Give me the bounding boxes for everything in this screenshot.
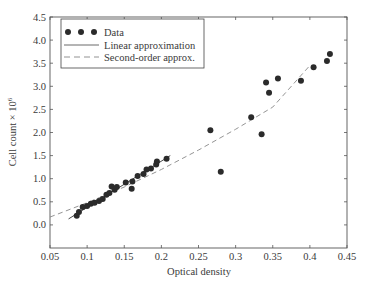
data-point [275, 75, 281, 81]
data-point [248, 114, 254, 120]
legend-data-marker-icon [65, 29, 97, 35]
data-point [129, 178, 135, 184]
x-tick-label: 0.25 [189, 251, 207, 262]
chart: 0.050.10.150.20.250.30.350.40.450.00.51.… [0, 0, 374, 288]
data-point [114, 184, 120, 190]
legend-label-data: Data [104, 27, 124, 38]
y-tick-label: 4.5 [33, 12, 46, 23]
y-tick-label: 1.0 [33, 173, 46, 184]
x-tick-label: 0.3 [229, 251, 242, 262]
x-tick-label: 0.15 [115, 251, 133, 262]
legend-label-linear: Linear approximation [104, 40, 196, 51]
data-point [106, 190, 112, 196]
data-point [164, 156, 170, 162]
data-point [154, 159, 160, 165]
y-tick-label: 0.0 [33, 219, 46, 230]
second-order-curve [50, 66, 310, 218]
data-point [298, 78, 304, 84]
y-tick-label: 2.0 [33, 127, 46, 138]
y-tick-label: 3.5 [33, 58, 46, 69]
data-point [324, 58, 330, 64]
x-tick-label: 0.05 [41, 251, 59, 262]
y-tick-label: 2.5 [33, 104, 46, 115]
data-point [311, 64, 317, 70]
y-tick-label: 0.5 [33, 196, 46, 207]
data-point [266, 90, 272, 96]
x-tick-label: 0.45 [338, 251, 356, 262]
data-point [123, 179, 129, 185]
y-axis-label: Cell count × 106 [6, 97, 18, 166]
data-point [148, 166, 154, 172]
y-tick-label: 1.5 [33, 150, 46, 161]
data-point [327, 51, 333, 57]
data-point [129, 186, 135, 192]
data-point [263, 80, 269, 86]
x-tick-label: 0.2 [155, 251, 168, 262]
x-tick-label: 0.4 [303, 251, 317, 262]
x-tick-label: 0.1 [81, 251, 94, 262]
data-point [218, 169, 224, 175]
data-point [135, 173, 141, 179]
plot-series [50, 51, 333, 219]
y-tick-label: 4.0 [33, 35, 46, 46]
data-point [76, 209, 82, 215]
y-tick-label: 3.0 [33, 81, 46, 92]
data-point [207, 127, 213, 133]
legend-label-second-order: Second-order approx. [104, 52, 195, 63]
x-axis-label: Optical density [167, 266, 232, 277]
data-point [259, 131, 265, 137]
x-tick-label: 0.35 [264, 251, 282, 262]
legend: Data Linear approximation Second-order a… [61, 19, 204, 68]
